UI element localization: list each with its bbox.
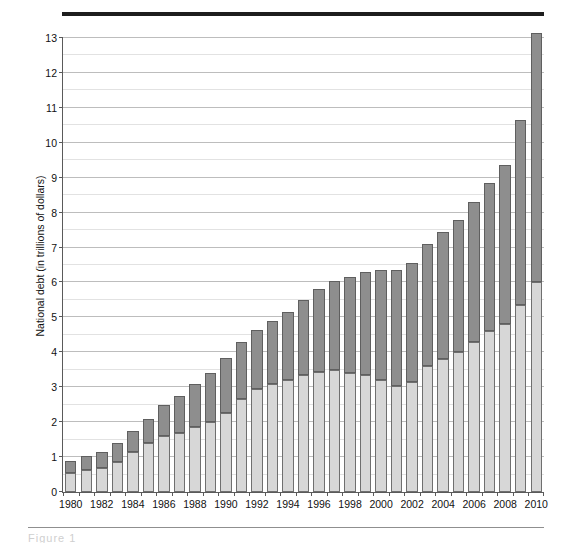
bar-segment-intragov-2007 bbox=[484, 183, 495, 331]
x-axis-tick-mark bbox=[482, 492, 483, 496]
bar-segment-public-1996 bbox=[313, 372, 324, 492]
bar-segment-intragov-1995 bbox=[298, 300, 309, 375]
bar-1982 bbox=[96, 452, 107, 492]
bar-segment-public-1985 bbox=[143, 443, 154, 492]
bar-segment-public-1984 bbox=[127, 452, 138, 492]
bar-segment-intragov-1982 bbox=[96, 452, 107, 468]
bar-segment-public-1987 bbox=[174, 433, 185, 492]
bar-1992 bbox=[251, 330, 262, 492]
x-axis-tick-mark bbox=[435, 492, 436, 496]
bar-2005 bbox=[453, 220, 464, 492]
x-axis-tick-label-2002: 2002 bbox=[400, 498, 423, 510]
bar-segment-intragov-1984 bbox=[127, 431, 138, 452]
x-axis-tick-mark bbox=[79, 492, 80, 496]
x-axis-tick-mark bbox=[466, 492, 467, 496]
y-axis-tick-label: 2 bbox=[51, 416, 57, 428]
bar-1986 bbox=[158, 405, 169, 492]
bottom-divider-rule bbox=[28, 527, 544, 528]
x-axis-tick-mark bbox=[311, 492, 312, 496]
bar-1980 bbox=[65, 461, 76, 492]
bar-segment-intragov-1988 bbox=[189, 384, 200, 428]
bar-2008 bbox=[499, 165, 510, 492]
bar-segment-public-2001 bbox=[391, 386, 402, 493]
y-axis-tick-label: 8 bbox=[51, 207, 57, 219]
x-axis-tick-mark bbox=[389, 492, 390, 496]
bar-segment-intragov-2000 bbox=[375, 270, 386, 380]
bar-1984 bbox=[127, 431, 138, 492]
x-axis-tick-mark bbox=[203, 492, 204, 496]
bar-segment-public-1998 bbox=[344, 373, 355, 492]
bar-segment-public-2004 bbox=[437, 359, 448, 492]
x-axis-tick-label-1992: 1992 bbox=[245, 498, 268, 510]
x-axis-tick-mark bbox=[94, 492, 95, 496]
x-axis-tick-label-1990: 1990 bbox=[214, 498, 237, 510]
x-axis-tick-mark bbox=[156, 492, 157, 496]
x-axis-tick-mark bbox=[497, 492, 498, 496]
x-axis-tick-mark bbox=[404, 492, 405, 496]
bar-segment-public-1995 bbox=[298, 375, 309, 492]
bar-segment-public-1990 bbox=[220, 413, 231, 492]
x-axis-tick-label-1980: 1980 bbox=[59, 498, 82, 510]
bar-segment-intragov-1992 bbox=[251, 330, 262, 389]
bar-segment-intragov-1986 bbox=[158, 405, 169, 436]
x-axis-tick-label-2004: 2004 bbox=[431, 498, 454, 510]
x-axis-tick-mark bbox=[265, 492, 266, 496]
y-axis-tick-label: 9 bbox=[51, 172, 57, 184]
x-axis-tick-label-1984: 1984 bbox=[121, 498, 144, 510]
bar-segment-intragov-1991 bbox=[236, 342, 247, 400]
bar-segment-public-2009 bbox=[515, 305, 526, 492]
bar-1997 bbox=[329, 281, 340, 492]
bar-segment-public-1989 bbox=[205, 422, 216, 492]
y-axis-tick-label: 1 bbox=[51, 451, 57, 463]
y-axis-tick-label: 0 bbox=[51, 486, 57, 498]
bar-segment-intragov-2002 bbox=[406, 263, 417, 382]
bar-segment-public-1982 bbox=[96, 468, 107, 492]
bar-segment-public-1983 bbox=[112, 462, 123, 492]
x-axis-tick-mark bbox=[218, 492, 219, 496]
x-axis-tick-mark bbox=[451, 492, 452, 496]
x-axis-tick-label-2000: 2000 bbox=[369, 498, 392, 510]
x-axis-tick-label-2008: 2008 bbox=[494, 498, 517, 510]
y-axis-tick-label: 4 bbox=[51, 346, 57, 358]
bar-segment-public-1991 bbox=[236, 399, 247, 492]
bar-2010 bbox=[531, 33, 542, 492]
bar-2004 bbox=[437, 232, 448, 492]
bar-segment-public-1992 bbox=[251, 389, 262, 492]
plot-area: 012345678910111213 198019821984198619881… bbox=[62, 38, 544, 493]
bar-segment-public-2003 bbox=[422, 366, 433, 492]
bar-1999 bbox=[360, 272, 371, 492]
bar-segment-intragov-1990 bbox=[220, 358, 231, 414]
y-axis-tick-label: 11 bbox=[46, 102, 57, 114]
bar-segment-public-1986 bbox=[158, 436, 169, 492]
bar-2006 bbox=[468, 202, 479, 492]
bar-segment-intragov-1987 bbox=[174, 396, 185, 433]
top-divider-rule bbox=[62, 12, 544, 16]
bar-1995 bbox=[298, 300, 309, 492]
bar-segment-public-2000 bbox=[375, 380, 386, 492]
x-axis-tick-mark bbox=[373, 492, 374, 496]
bar-2002 bbox=[406, 263, 417, 492]
figure-container: National debt (in trillions of dollars) … bbox=[0, 0, 572, 544]
bar-segment-public-1988 bbox=[189, 427, 200, 492]
bar-segment-intragov-2004 bbox=[437, 232, 448, 359]
bar-1988 bbox=[189, 384, 200, 492]
bar-segment-intragov-1993 bbox=[267, 321, 278, 384]
x-axis-tick-label-2006: 2006 bbox=[462, 498, 485, 510]
x-axis-tick-mark bbox=[110, 492, 111, 496]
x-axis-tick-mark bbox=[63, 492, 64, 496]
x-axis-tick-label-1994: 1994 bbox=[276, 498, 299, 510]
bar-2003 bbox=[422, 244, 433, 492]
bar-segment-intragov-2009 bbox=[515, 120, 526, 305]
bar-segment-intragov-1981 bbox=[81, 456, 92, 470]
bar-1985 bbox=[143, 419, 154, 492]
bar-segment-intragov-1997 bbox=[329, 281, 340, 370]
y-axis-tick-label: 10 bbox=[45, 137, 57, 149]
bar-segment-intragov-1999 bbox=[360, 272, 371, 375]
x-axis-tick-mark bbox=[234, 492, 235, 496]
x-axis-tick-mark bbox=[296, 492, 297, 496]
y-axis-title: National debt (in trillions of dollars) bbox=[34, 126, 46, 386]
bar-segment-intragov-2005 bbox=[453, 220, 464, 353]
bar-2007 bbox=[484, 183, 495, 492]
bar-segment-intragov-2003 bbox=[422, 244, 433, 366]
bar-segment-intragov-1983 bbox=[112, 443, 123, 462]
